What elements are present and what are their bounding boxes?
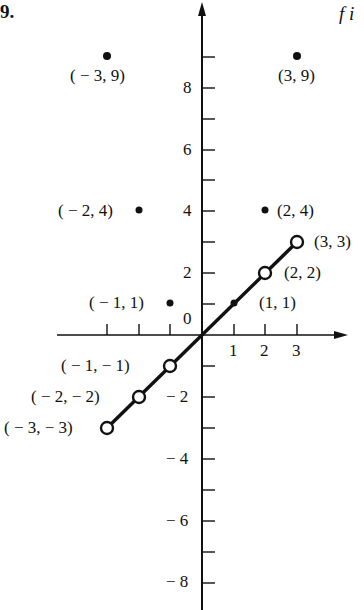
label-point: ( − 1, 1) [89, 294, 144, 311]
y-tick-label: − 4 [166, 450, 188, 467]
y-tick-label: − 2 [166, 388, 188, 405]
x-tick-label: 1 [229, 342, 238, 359]
y-tick-label: 4 [183, 202, 192, 219]
y-axis-arrow-icon [198, 2, 206, 16]
x-axis-arrow-icon [334, 331, 348, 339]
x-tick-label: 3 [292, 342, 301, 359]
y-tick-label: − 8 [166, 573, 188, 590]
y-tick-label: 2 [183, 264, 192, 281]
x-tick-label: 2 [260, 342, 269, 359]
label-point: ( − 2, 4) [58, 202, 113, 219]
y-tick-label: 6 [183, 141, 192, 158]
label-point: ( − 3, 9) [70, 67, 125, 84]
label-point: (1, 1) [259, 294, 296, 311]
label-point: ( − 2, − 2) [31, 388, 100, 405]
label-point: ( − 3, − 3) [4, 419, 73, 436]
y-ticks [202, 57, 215, 583]
y-tick-label: − 6 [166, 512, 188, 529]
y-tick-label: 8 [183, 79, 192, 96]
label-point: (2, 4) [277, 202, 314, 219]
label-point: ( − 1, − 1) [61, 357, 130, 374]
label-point: (3, 3) [314, 233, 351, 250]
label-point: (2, 2) [284, 264, 321, 281]
y-tick-label: 0 [183, 310, 192, 327]
label-point: (3, 9) [278, 67, 315, 84]
